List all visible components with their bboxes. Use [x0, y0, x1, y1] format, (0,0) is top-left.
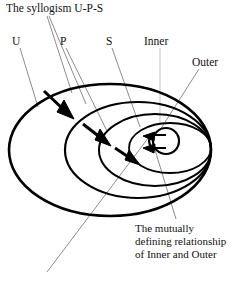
caption-line-2: defining relationship [135, 235, 226, 248]
arrow-third-to-center [115, 148, 140, 165]
double-headed-mutual-arrow [143, 132, 166, 153]
leader-title-a [47, 16, 72, 93]
caption: The mutually defining relationship of In… [135, 222, 226, 261]
fourth-ellipse [129, 123, 211, 173]
caption-line-3: of Inner and Outer [135, 248, 226, 261]
arrow-outer-to-second [44, 91, 74, 119]
label-s: S [106, 35, 112, 49]
page-title: The syllogism U-P-S [6, 2, 103, 16]
center-circle [153, 128, 179, 154]
label-u: U [12, 35, 20, 49]
label-inner: Inner [144, 35, 168, 49]
arrow-second-to-third [83, 124, 111, 146]
outer-ellipse [9, 84, 211, 216]
leader-u [20, 48, 38, 107]
nested-ellipses [9, 84, 211, 216]
leader-outer [160, 69, 199, 130]
caption-line-1: The mutually [135, 222, 226, 235]
label-p: P [60, 35, 66, 49]
label-outer: Outer [192, 56, 218, 70]
